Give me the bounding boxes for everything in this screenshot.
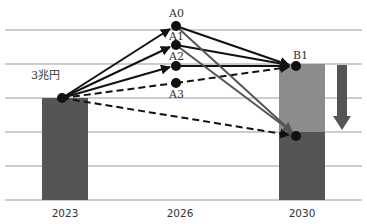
- bar-2030-lower: [279, 132, 325, 200]
- year-label-2026: 2026: [167, 208, 194, 219]
- point-start: [57, 93, 67, 103]
- label-a2: A2: [169, 51, 184, 62]
- label-b1: B1: [293, 50, 308, 61]
- bar-2030-upper: [279, 64, 325, 132]
- scenario-diagram: 3兆円 A0 A1 A2 A3 B1 2023 2026 2030: [0, 0, 367, 224]
- start-value-label: 3兆円: [31, 70, 60, 81]
- solid-arrows-to-b1: [176, 26, 289, 66]
- label-a0: A0: [169, 8, 184, 19]
- point-a3: [171, 78, 181, 88]
- year-label-2030: 2030: [289, 208, 316, 219]
- gray-arrows-to-lower: [176, 26, 292, 132]
- label-a1: A1: [169, 31, 184, 42]
- bar-2023: [42, 98, 88, 200]
- year-label-2023: 2023: [52, 208, 79, 219]
- point-2030-lower: [291, 131, 301, 141]
- point-b1: [291, 61, 301, 71]
- label-a3: A3: [169, 89, 184, 100]
